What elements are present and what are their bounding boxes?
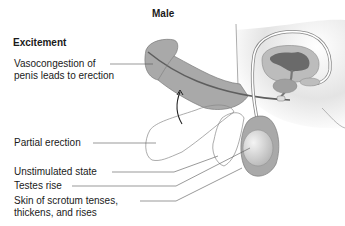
label-unstimulated-state: Unstimulated state [14, 166, 97, 178]
anatomy-illustration [0, 0, 345, 226]
label-testes-rise: Testes rise [14, 180, 62, 192]
direction-arrow [177, 92, 182, 124]
erect-penis [145, 39, 248, 109]
label-line: Vasocongestion of [14, 58, 114, 70]
label-line: penis leads to erection [14, 70, 114, 82]
phase-heading: Excitement [13, 37, 66, 48]
diagram-title: Male [152, 8, 174, 19]
label-scrotum-skin: Skin of scrotum tenses, thickens, and ri… [14, 195, 118, 219]
partial-erection-outline [146, 105, 234, 161]
label-partial-erection: Partial erection [14, 137, 81, 149]
label-line: thickens, and rises [14, 207, 118, 219]
seminal-vesicle [300, 78, 320, 86]
testis [243, 130, 273, 166]
unstimulated-outline [213, 113, 244, 166]
label-vasocongestion: Vasocongestion of penis leads to erectio… [14, 58, 114, 82]
label-line: Skin of scrotum tenses, [14, 195, 118, 207]
prostate [273, 79, 297, 93]
